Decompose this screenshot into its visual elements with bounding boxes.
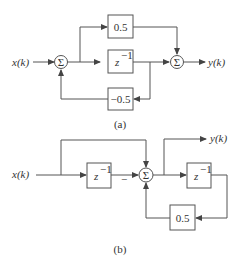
wire-gain-to-sum2 [133, 27, 177, 54]
delay-block-b1: z −1 [87, 163, 112, 188]
summing-junction-a1: Σ [55, 56, 68, 69]
diagram-b: x(k) z −1 − Σ y(k) z −1 0.5 (b [11, 132, 227, 256]
delay-block-b2: z −1 [187, 163, 212, 188]
wire-feedback-to-sum1 [61, 70, 108, 99]
svg-text:−0.5: −0.5 [111, 93, 131, 105]
caption-a: (a) [114, 118, 127, 131]
sigma-icon: Σ [174, 56, 180, 68]
svg-text:0.5: 0.5 [114, 21, 128, 33]
svg-text:z: z [193, 170, 199, 182]
gain-block-feedback-b: 0.5 [170, 205, 195, 230]
wire-to-gain-top [80, 27, 107, 62]
input-label-b: x(k) [11, 168, 29, 181]
gain-block-top: 0.5 [108, 15, 133, 38]
output-label-a: y(k) [207, 56, 225, 69]
svg-text:z: z [114, 56, 120, 68]
sigma-icon: Σ [58, 56, 64, 68]
wire-gain-to-sum-b [146, 183, 170, 218]
summing-junction-a2: Σ [171, 56, 184, 69]
delay-block-a: z −1 [108, 49, 133, 73]
svg-text:−1: −1 [100, 163, 112, 175]
block-diagrams: x(k) Σ 0.5 z −1 −0.5 [0, 0, 241, 263]
svg-text:−1: −1 [200, 163, 212, 175]
svg-text:z: z [93, 170, 99, 182]
output-label-b: y(k) [209, 132, 227, 145]
summing-junction-b: Σ [139, 168, 153, 182]
minus-sign: − [121, 173, 127, 185]
input-label-a: x(k) [11, 56, 29, 69]
sigma-icon: Σ [143, 169, 149, 181]
wire-to-feedback-a [134, 62, 150, 99]
gain-block-feedback-a: −0.5 [108, 88, 133, 110]
svg-text:−1: −1 [121, 49, 133, 61]
diagram-a: x(k) Σ 0.5 z −1 −0.5 [11, 15, 225, 131]
caption-b: (b) [114, 243, 127, 256]
svg-text:0.5: 0.5 [176, 212, 190, 224]
